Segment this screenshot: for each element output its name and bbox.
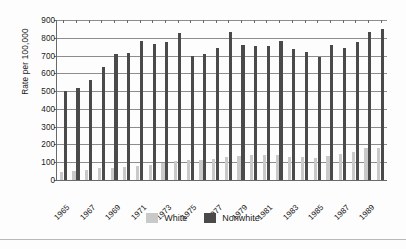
x-tick-mark xyxy=(254,20,255,23)
bar-white xyxy=(352,152,355,180)
y-tick-label: 0 xyxy=(15,176,55,185)
bar-group xyxy=(133,20,146,180)
bar-group xyxy=(324,20,337,180)
y-tick-label: 300 xyxy=(15,122,55,131)
bar-group xyxy=(197,20,210,180)
bar-white xyxy=(314,158,317,180)
x-tick-mark xyxy=(330,20,331,23)
bar-white xyxy=(136,166,139,180)
legend-item[interactable]: White xyxy=(146,213,187,223)
x-tick-mark xyxy=(152,20,153,23)
legend-item[interactable]: Nonwhite xyxy=(204,213,260,223)
bar-group xyxy=(311,20,324,180)
y-tick-label: 400 xyxy=(15,104,55,113)
x-tick-mark xyxy=(279,20,280,23)
bar-white xyxy=(225,157,228,180)
bar-nonwhite xyxy=(140,41,143,180)
bar-white xyxy=(237,156,240,180)
bar-white xyxy=(98,168,101,180)
bar-white xyxy=(212,159,215,180)
bar-group xyxy=(336,20,349,180)
bar-nonwhite xyxy=(318,57,321,180)
bar-nonwhite xyxy=(368,32,371,180)
bar-white xyxy=(276,155,279,180)
bar-group xyxy=(374,20,387,180)
legend-swatch-icon xyxy=(204,213,216,223)
chart-figure: Rate per 100,000 01002003004005006007008… xyxy=(0,0,406,249)
x-tick-mark xyxy=(114,20,115,23)
bar-group xyxy=(362,20,375,180)
bar-white xyxy=(288,157,291,180)
x-tick-mark xyxy=(355,20,356,23)
bar-nonwhite xyxy=(241,45,244,180)
legend-label: White xyxy=(164,213,187,223)
bar-nonwhite xyxy=(64,91,67,180)
x-tick-mark xyxy=(165,20,166,23)
bar-nonwhite xyxy=(76,88,79,180)
bar-white xyxy=(199,160,202,180)
bar-group xyxy=(298,20,311,180)
bar-group xyxy=(171,20,184,180)
x-tick-mark xyxy=(368,20,369,23)
x-tick-mark xyxy=(266,20,267,23)
bar-nonwhite xyxy=(165,42,168,180)
bar-white xyxy=(326,156,329,180)
bar-nonwhite xyxy=(267,46,270,180)
bar-white xyxy=(301,157,304,180)
bar-nonwhite xyxy=(127,53,130,180)
x-tick-mark xyxy=(203,20,204,23)
bar-group xyxy=(108,20,121,180)
x-tick-mark xyxy=(76,20,77,23)
bar-nonwhite xyxy=(381,29,384,180)
x-tick-mark xyxy=(190,20,191,23)
x-tick-mark xyxy=(305,20,306,23)
bar-nonwhite xyxy=(254,46,257,180)
bar-nonwhite xyxy=(178,33,181,180)
bar-white xyxy=(377,148,380,180)
bar-group xyxy=(95,20,108,180)
bar-group xyxy=(247,20,260,180)
bar-group xyxy=(82,20,95,180)
bar-white xyxy=(60,172,63,180)
x-tick-mark xyxy=(228,20,229,23)
x-tick-mark xyxy=(292,20,293,23)
bar-nonwhite xyxy=(102,67,105,180)
bar-group xyxy=(285,20,298,180)
y-tick-label: 200 xyxy=(15,140,55,149)
bar-group xyxy=(159,20,172,180)
bar-white xyxy=(161,163,164,180)
bar-group xyxy=(260,20,273,180)
x-tick-mark xyxy=(63,20,64,23)
legend-label: Nonwhite xyxy=(222,213,260,223)
bar-group xyxy=(222,20,235,180)
bottom-divider xyxy=(0,239,406,240)
bar-nonwhite xyxy=(203,54,206,180)
bar-group xyxy=(184,20,197,180)
bar-nonwhite xyxy=(229,32,232,180)
bar-group xyxy=(57,20,70,180)
bar-nonwhite xyxy=(305,52,308,180)
x-tick-mark xyxy=(381,20,382,23)
bar-white xyxy=(187,160,190,180)
bar-white xyxy=(85,170,88,180)
bar-white xyxy=(263,155,266,180)
x-tick-mark xyxy=(343,20,344,23)
bar-group xyxy=(273,20,286,180)
y-tick-label: 100 xyxy=(15,158,55,167)
bar-white xyxy=(250,155,253,180)
x-tick-mark xyxy=(317,20,318,23)
bar-nonwhite xyxy=(292,49,295,180)
x-tick-mark xyxy=(241,20,242,23)
y-tick-label: 800 xyxy=(15,33,55,42)
bar-white xyxy=(149,165,152,180)
x-tick-mark xyxy=(140,20,141,23)
y-tick-label: 600 xyxy=(15,69,55,78)
chart-legend: WhiteNonwhite xyxy=(0,213,406,223)
y-tick-label: 500 xyxy=(15,87,55,96)
y-tick-label: 900 xyxy=(15,16,55,25)
legend-swatch-icon xyxy=(146,213,158,223)
bar-white xyxy=(72,171,75,180)
x-tick-mark xyxy=(127,20,128,23)
bar-white xyxy=(174,161,177,180)
plot-area: 0100200300400500600700800900 19651967196… xyxy=(56,20,387,181)
